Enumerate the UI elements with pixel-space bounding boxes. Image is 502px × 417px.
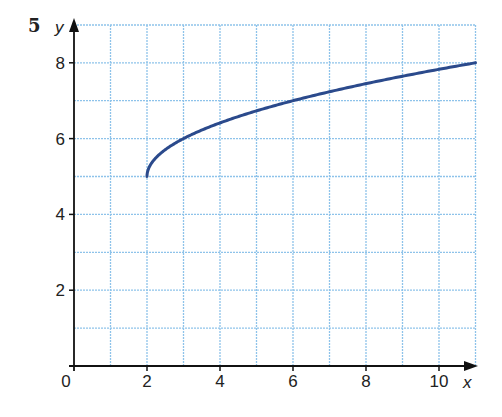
- y-tick-label: 6: [56, 130, 65, 149]
- data-curve: [147, 63, 476, 177]
- x-tick-label: 10: [430, 372, 449, 391]
- x-tick-label: 0: [61, 372, 70, 391]
- y-tick-label: 8: [56, 54, 65, 73]
- y-tick-label: 4: [56, 205, 65, 224]
- axes: [69, 18, 478, 371]
- y-axis-label: y: [54, 18, 65, 37]
- x-tick-label: 4: [215, 372, 224, 391]
- chart: 02468102468 5 y x: [0, 0, 502, 417]
- y-tick-label: 2: [56, 281, 65, 300]
- x-tick-label: 2: [142, 372, 151, 391]
- question-number: 5: [28, 15, 41, 36]
- grid: [74, 25, 476, 366]
- x-tick-label: 6: [288, 372, 297, 391]
- x-tick-label: 8: [361, 372, 370, 391]
- x-axis-label: x: [462, 373, 472, 392]
- tick-labels: 02468102468: [56, 54, 449, 391]
